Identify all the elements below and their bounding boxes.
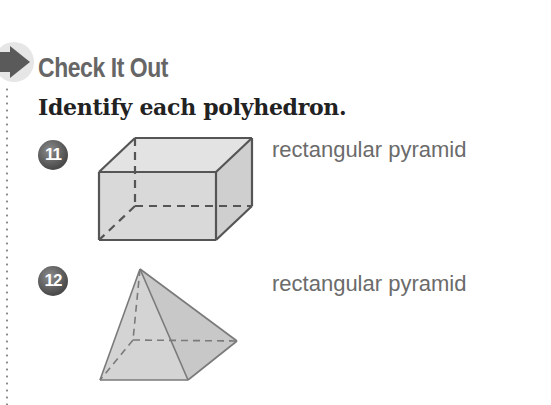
instruction-text: Identify each polyhedron. [38,94,346,120]
right-arrow-icon [0,40,36,84]
problem-number-badge: 11 [38,140,68,170]
rectangular-prism-figure [95,136,255,244]
answer-text: rectangular pyramid [272,271,466,297]
rectangular-pyramid-figure [95,264,245,384]
section-title: Check It Out [38,53,168,84]
dotted-margin-line [6,86,8,405]
answer-text: rectangular pyramid [272,137,466,163]
problem-number-badge: 12 [38,266,68,296]
